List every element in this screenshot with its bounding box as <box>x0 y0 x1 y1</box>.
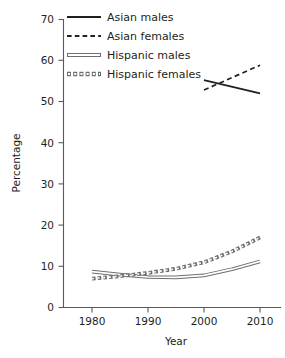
axis-group: 0 10 20 30 40 50 60 70 1980 1990 2000 20… <box>10 13 281 347</box>
x-axis-title: Year <box>164 335 188 347</box>
y-tick-label: 30 <box>41 178 54 190</box>
y-axis-title: Percentage <box>10 133 22 192</box>
y-tick-labels: 0 10 20 30 40 50 60 70 <box>41 13 54 313</box>
x-tick-labels: 1980 1990 2000 2010 <box>79 315 274 327</box>
x-tick-label: 1990 <box>135 315 162 327</box>
legend-item-hispanic-females[interactable]: Hispanic females <box>67 68 201 81</box>
y-tick-label: 50 <box>41 95 54 107</box>
series-line-hispanic-females-outer <box>92 238 260 279</box>
y-tick-label: 60 <box>41 54 54 66</box>
legend-label: Asian females <box>107 30 184 43</box>
chart-figure: 0 10 20 30 40 50 60 70 1980 1990 2000 20… <box>0 0 285 358</box>
y-tick-label: 10 <box>41 260 54 272</box>
series-group <box>92 65 260 278</box>
x-tick-marks <box>92 308 260 313</box>
legend-item-asian-males[interactable]: Asian males <box>67 11 174 24</box>
line-chart: 0 10 20 30 40 50 60 70 1980 1990 2000 20… <box>0 0 285 358</box>
y-tick-label: 70 <box>41 13 54 25</box>
legend-label: Hispanic males <box>107 49 191 62</box>
x-tick-label: 2000 <box>191 315 218 327</box>
y-tick-label: 40 <box>41 137 54 149</box>
y-tick-marks <box>59 20 64 308</box>
y-tick-label: 20 <box>41 219 54 231</box>
x-tick-label: 1980 <box>79 315 106 327</box>
y-tick-label: 0 <box>47 301 54 313</box>
legend-item-asian-females[interactable]: Asian females <box>67 30 184 43</box>
x-tick-label: 2010 <box>247 315 274 327</box>
legend-item-hispanic-males[interactable]: Hispanic males <box>67 49 191 62</box>
legend: Asian males Asian females Hispanic males… <box>67 11 201 81</box>
legend-label: Asian males <box>107 11 174 24</box>
legend-label: Hispanic females <box>107 68 201 81</box>
series-line-hispanic-females-inner <box>92 238 260 279</box>
